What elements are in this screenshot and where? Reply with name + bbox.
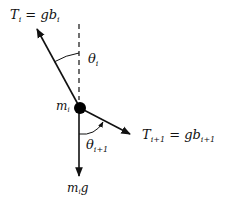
tension-upper-arrow — [37, 29, 80, 108]
label-tension-lower: Ti+1 = gbi+1 — [142, 127, 215, 144]
theta-upper-arc — [54, 53, 79, 62]
tension-lower-arrow — [80, 108, 130, 134]
label-tension-upper: Ti = gbi — [10, 7, 60, 24]
force-diagram: Ti = gbi θi mi θi+1 Ti+1 = gbi+1 mig — [0, 0, 227, 201]
label-weight: mig — [67, 181, 89, 196]
label-theta-lower: θi+1 — [86, 137, 108, 154]
label-mass: mi — [56, 99, 70, 114]
mass-bead — [74, 102, 86, 114]
theta-lower-arc — [79, 122, 103, 134]
label-theta-upper: θi — [88, 51, 99, 68]
